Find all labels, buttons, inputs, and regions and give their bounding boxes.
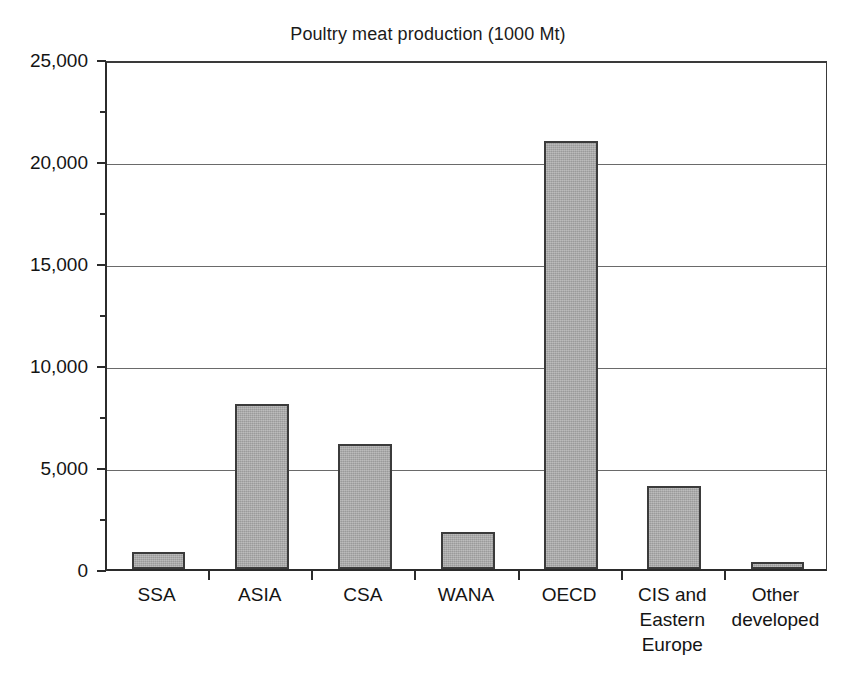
bar-csa[interactable] — [338, 444, 392, 569]
gridline-15000 — [107, 266, 826, 267]
x-category-label-oecd: OECD — [518, 582, 621, 607]
x-label-line: WANA — [414, 582, 517, 607]
x-label-line: Europe — [621, 632, 724, 657]
x-category-label-cis-and-eastern-europe: CIS andEasternEurope — [621, 582, 724, 657]
x-label-line: ASIA — [208, 582, 311, 607]
x-category-label-asia: ASIA — [208, 582, 311, 607]
x-label-line: SSA — [105, 582, 208, 607]
x-category-label-wana: WANA — [414, 582, 517, 607]
gridline-25000 — [107, 62, 826, 63]
bar-ssa[interactable] — [132, 552, 186, 569]
x-tick-mark-2 — [311, 571, 313, 580]
x-axis-category-labels: SSAASIACSAWANAOECDCIS andEasternEuropeOt… — [105, 582, 827, 682]
gridline-10000 — [107, 368, 826, 369]
bar-wana[interactable] — [441, 532, 495, 569]
x-category-label-ssa: SSA — [105, 582, 208, 607]
x-label-line: CIS and — [621, 582, 724, 607]
bar-cis-and-eastern-europe[interactable] — [647, 486, 701, 569]
x-label-line: CSA — [311, 582, 414, 607]
x-tick-mark-4 — [518, 571, 520, 580]
x-category-label-csa: CSA — [311, 582, 414, 607]
poultry-meat-production-bar-chart: Poultry meat production (1000 Mt) 05,000… — [0, 0, 856, 685]
x-category-label-other-developed: Otherdeveloped — [724, 582, 827, 632]
gridline-20000 — [107, 164, 826, 165]
x-label-line: OECD — [518, 582, 621, 607]
bar-asia[interactable] — [235, 404, 289, 569]
plot-area — [105, 61, 827, 571]
x-tick-mark-5 — [621, 571, 623, 580]
gridline-5000 — [107, 470, 826, 471]
x-label-line: Other — [724, 582, 827, 607]
x-tick-mark-1 — [208, 571, 210, 580]
x-label-line: Eastern — [621, 607, 724, 632]
x-tick-mark-6 — [724, 571, 726, 580]
x-tick-mark-3 — [414, 571, 416, 580]
x-label-line: developed — [724, 607, 827, 632]
bar-oecd[interactable] — [544, 141, 598, 569]
bar-other-developed[interactable] — [751, 562, 805, 569]
